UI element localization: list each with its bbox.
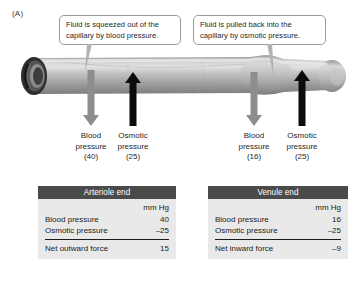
down-arrow-icon-blood-pressure-arteriole <box>82 70 100 126</box>
label-line2: pressure <box>105 142 161 153</box>
table-row: Osmotic pressure –25 <box>45 225 169 237</box>
label-value: (25) <box>274 152 330 163</box>
row-value: –25 <box>315 225 341 237</box>
label-line2: pressure <box>274 142 330 153</box>
table-row-net: Net outward force 15 <box>45 239 169 255</box>
net-label: Net outward force <box>45 243 108 255</box>
table-venule-title: Venule end <box>208 186 348 199</box>
callout-blood-pressure: Fluid is squeezed out of the capillary b… <box>59 15 181 45</box>
down-arrow-icon-blood-pressure-venule <box>245 72 263 126</box>
table-row: Blood pressure 40 <box>45 214 169 226</box>
up-arrow-icon-osmotic-pressure-venule <box>293 70 311 126</box>
callout-osmotic-pressure-line1: Fluid is pulled back into the <box>200 20 319 31</box>
row-label: Osmotic pressure <box>215 225 278 237</box>
callout-osmotic-pressure-line2: capillary by osmotic pressure. <box>200 31 319 42</box>
net-value: 15 <box>143 243 169 255</box>
label-line1: Osmotic <box>105 131 161 142</box>
callout-osmotic-pressure: Fluid is pulled back into the capillary … <box>193 15 326 45</box>
table-row: Blood pressure 16 <box>215 214 341 226</box>
label-osmotic-pressure-venule: Osmotic pressure (25) <box>274 131 330 163</box>
table-row: Osmotic pressure –25 <box>215 225 341 237</box>
row-value: 16 <box>315 214 341 226</box>
up-arrow-icon-osmotic-pressure-arteriole <box>124 72 142 126</box>
table-row-net: Net inward force –9 <box>215 239 341 255</box>
label-osmotic-pressure-arteriole: Osmotic pressure (25) <box>105 131 161 163</box>
unit-label: mm Hg <box>135 202 169 214</box>
row-value: 40 <box>143 214 169 226</box>
label-value: (25) <box>105 152 161 163</box>
row-label: Osmotic pressure <box>45 225 108 237</box>
table-row-unit: mm Hg <box>215 202 341 214</box>
callout-blood-pressure-line2: capillary by blood pressure. <box>66 31 174 42</box>
label-line1: Osmotic <box>274 131 330 142</box>
net-label: Net inward force <box>215 243 273 255</box>
callout-pointer-right-icon <box>267 44 274 78</box>
table-row-unit: mm Hg <box>45 202 169 214</box>
row-value: –25 <box>143 225 169 237</box>
table-arteriole-title: Arteriole end <box>38 186 176 199</box>
unit-label: mm Hg <box>307 202 341 214</box>
net-value: –9 <box>315 243 341 255</box>
row-label: Blood pressure <box>215 214 269 226</box>
table-arteriole-end: Arteriole end mm Hg Blood pressure 40 Os… <box>38 186 176 259</box>
callout-blood-pressure-line1: Fluid is squeezed out of the <box>66 20 174 31</box>
row-label: Blood pressure <box>45 214 99 226</box>
panel-label: (A) <box>12 9 23 18</box>
table-venule-end: Venule end mm Hg Blood pressure 16 Osmot… <box>208 186 348 259</box>
